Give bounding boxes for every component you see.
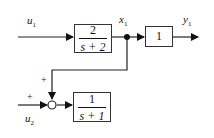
g1-numerator: 2 — [90, 24, 96, 38]
signal-label-u2: u2 — [25, 113, 34, 127]
block-g2: 1 s + 1 — [73, 92, 111, 122]
g1-denominator: s + 2 — [81, 39, 106, 53]
block-gain: 1 — [145, 26, 173, 47]
signal-label-u1: u1 — [27, 15, 36, 29]
branch-point — [124, 34, 130, 40]
sum-sign-top: + — [41, 75, 47, 85]
signal-label-x1: x1 — [119, 14, 127, 28]
sum-sign-left: + — [27, 92, 33, 102]
block-g1: 2 s + 2 — [74, 24, 112, 53]
summing-junction — [48, 101, 56, 109]
gain-value: 1 — [156, 29, 162, 44]
signal-label-y1: y1 — [183, 14, 191, 28]
g2-numerator: 1 — [89, 93, 95, 107]
g2-denominator: s + 1 — [80, 108, 105, 122]
